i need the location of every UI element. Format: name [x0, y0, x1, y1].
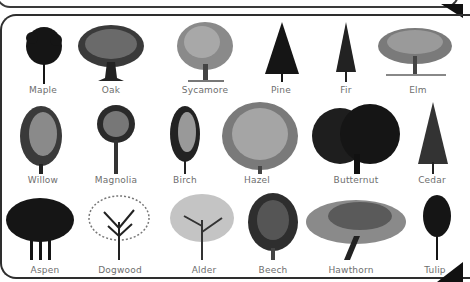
magnolia-tree-icon [94, 104, 138, 176]
oak-tree-icon [76, 22, 146, 82]
label-elm: Elm [409, 85, 427, 95]
label-butternut: Butternut [334, 175, 379, 185]
label-pine: Pine [271, 85, 291, 95]
label-birch: Birch [173, 175, 197, 185]
label-aspen: Aspen [31, 265, 60, 275]
elm-tree-icon [376, 26, 454, 80]
label-dogwood: Dogwood [98, 265, 142, 275]
maple-tree-icon [22, 22, 66, 84]
label-magnolia: Magnolia [95, 175, 137, 185]
label-willow: Willow [28, 175, 58, 185]
hawthorn-tree-icon [304, 196, 408, 262]
butternut-tree-icon [310, 104, 400, 176]
label-maple: Maple [29, 85, 57, 95]
pine-tree-icon [263, 22, 301, 84]
label-tulip: Tulip [424, 265, 446, 275]
label-fir: Fir [340, 85, 351, 95]
birch-tree-icon [168, 104, 202, 176]
alder-tree-icon [168, 192, 236, 262]
beech-tree-icon [246, 192, 300, 262]
label-cedar: Cedar [418, 175, 446, 185]
label-hazel: Hazel [244, 175, 270, 185]
dogwood-tree-icon [86, 192, 152, 262]
tulip-tree-icon [420, 194, 454, 262]
top-panel-edge [0, 0, 459, 8]
cedar-tree-icon [416, 102, 450, 176]
sycamore-tree-icon [174, 20, 236, 84]
aspen-tree-icon [4, 196, 76, 262]
label-alder: Alder [192, 265, 217, 275]
label-sycamore: Sycamore [182, 85, 228, 95]
willow-tree-icon [16, 104, 66, 176]
label-beech: Beech [259, 265, 288, 275]
label-oak: Oak [102, 85, 120, 95]
label-hawthorn: Hawthorn [328, 265, 373, 275]
hazel-tree-icon [220, 100, 300, 176]
fir-tree-icon [334, 22, 358, 84]
